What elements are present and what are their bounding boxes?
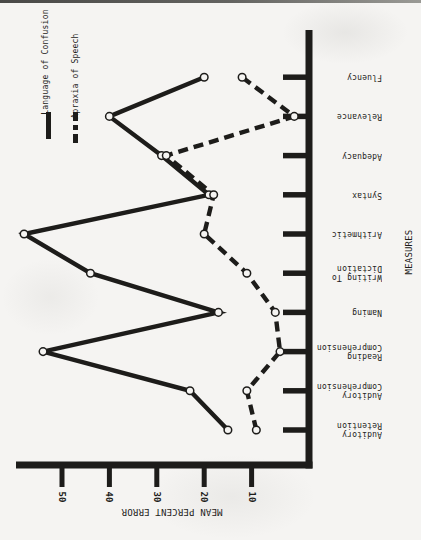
data-point-marker	[243, 387, 251, 395]
data-point-marker	[20, 230, 28, 238]
category-label-relevance: Relevance	[270, 104, 382, 128]
value-tick-label: 30	[152, 491, 162, 502]
data-point-marker	[106, 113, 114, 121]
data-point-marker	[200, 230, 208, 238]
data-point-marker	[224, 426, 232, 434]
data-point-marker	[243, 269, 251, 277]
category-label-arithmetic: Arithmetic	[270, 222, 382, 246]
category-label-reading-comprehension: ReadingComprehension	[270, 340, 382, 364]
value-tick-label: 10	[247, 491, 257, 502]
category-label-writing-to-dictation: Writing ToDictation	[270, 261, 382, 285]
data-point-marker	[210, 191, 218, 199]
data-point-marker	[87, 269, 95, 277]
category-label-syntax: Syntax	[270, 183, 382, 207]
category-label-fluency: Fluency	[270, 65, 382, 89]
data-point-marker	[162, 152, 170, 160]
value-tick-label: 50	[57, 491, 67, 502]
series-line-language-of-confusion	[24, 77, 228, 430]
category-label-naming: Naming	[270, 300, 382, 324]
data-point-marker	[39, 348, 47, 356]
value-tick-label: 20	[199, 491, 209, 502]
category-axis-title: MEASURES	[404, 230, 414, 275]
data-point-marker	[253, 426, 261, 434]
category-label-auditory-retention: AuditoryRetention	[270, 418, 382, 442]
figure: Language of Confusion Apraxia of Speech …	[0, 0, 421, 540]
data-point-marker	[200, 73, 208, 81]
legend-label-apraxia-of-speech: Apraxia of Speech	[71, 33, 80, 118]
value-tick-label: 40	[104, 491, 114, 502]
legend-label-language-of-confusion: Language of Confusion	[41, 9, 50, 114]
data-point-marker	[215, 309, 223, 317]
category-label-auditory-comprehension: AuditoryComprehension	[270, 379, 382, 403]
data-point-marker	[186, 387, 194, 395]
series-line-apraxia-of-speech	[166, 77, 294, 430]
data-point-marker	[238, 73, 246, 81]
value-axis-title: MEAN PERCENT ERROR	[121, 507, 222, 517]
category-label-adequacy: Adequacy	[270, 144, 382, 168]
